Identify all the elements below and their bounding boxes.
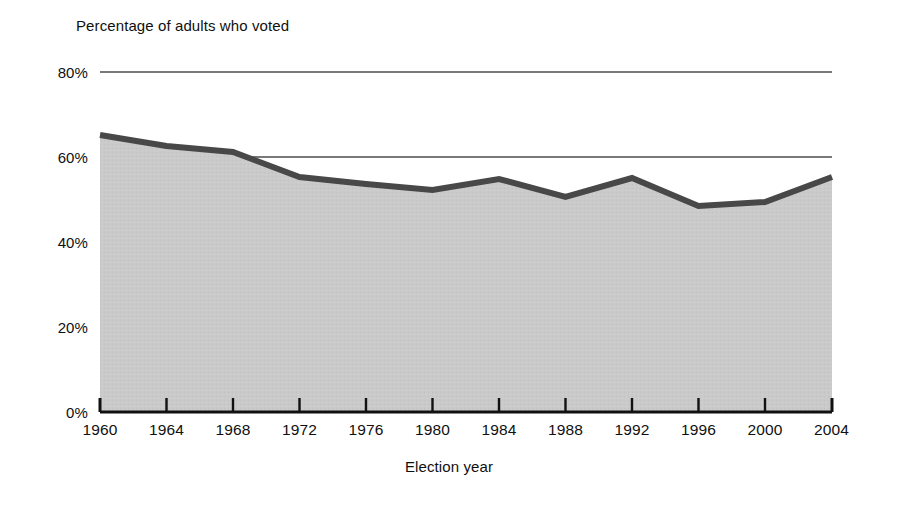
x-tick-label-2004: 2004 (799, 421, 865, 439)
y-tick-label-60: 60% (32, 149, 88, 166)
voter-turnout-area-chart: Percentage of adults who voted (0, 0, 898, 512)
x-tick-label-1996: 1996 (666, 421, 732, 439)
x-tick-label-1968: 1968 (200, 421, 266, 439)
x-tick-label-1972: 1972 (267, 421, 333, 439)
x-tick-label-1964: 1964 (134, 421, 200, 439)
area-fill (100, 135, 832, 412)
y-tick-label-20: 20% (32, 319, 88, 336)
x-tick-label-1960: 1960 (67, 421, 133, 439)
y-tick-label-80: 80% (32, 64, 88, 81)
x-tick-label-1976: 1976 (333, 421, 399, 439)
x-tick-label-1980: 1980 (400, 421, 466, 439)
y-tick-label-40: 40% (32, 234, 88, 251)
x-tick-label-1992: 1992 (599, 421, 665, 439)
y-tick-label-0: 0% (32, 404, 88, 421)
x-tick-label-1988: 1988 (533, 421, 599, 439)
x-axis-title: Election year (0, 458, 898, 475)
x-tick-label-1984: 1984 (466, 421, 532, 439)
x-tick-label-2000: 2000 (732, 421, 798, 439)
